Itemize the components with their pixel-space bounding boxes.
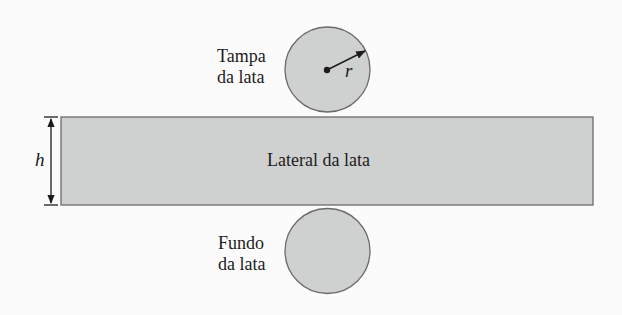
top-label-line2: da lata [217,67,266,88]
bottom-label-line2: da lata [218,254,265,275]
top-circle-label: Tampa da lata [217,46,266,88]
side-rectangle-label: Lateral da lata [267,150,370,171]
height-label: h [35,149,45,171]
bottom-circle-label: Fundo da lata [218,233,265,275]
bottom-circle [285,209,370,294]
radius-label: r [345,60,352,82]
top-label-line1: Tampa [217,46,266,67]
bottom-label-line1: Fundo [218,233,265,254]
